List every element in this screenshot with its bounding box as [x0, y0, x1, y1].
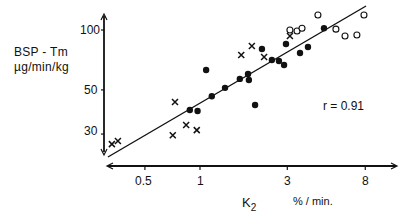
- x-axis-label-main: K: [242, 195, 251, 210]
- data-point-cross: [194, 127, 200, 133]
- data-point-filled-circle: [259, 46, 265, 52]
- data-point-filled-circle: [209, 93, 215, 99]
- x-tick-1: 1: [197, 174, 204, 188]
- data-point-cross: [238, 52, 244, 58]
- data-point-cross: [261, 54, 267, 60]
- data-point-filled-circle: [194, 108, 200, 114]
- y-axis-unit: µg/min/kg: [14, 60, 69, 74]
- y-tick-30: 30: [84, 124, 97, 138]
- data-point-filled-circle: [297, 50, 303, 56]
- correlation-annotation: r = 0.91: [323, 99, 364, 113]
- data-point-cross: [172, 99, 178, 105]
- data-point-filled-circle: [276, 58, 282, 64]
- x-axis-label: K2: [242, 195, 256, 213]
- data-point-filled-circle: [281, 62, 287, 68]
- data-point-open-circle: [333, 26, 339, 32]
- data-point-cross: [249, 43, 255, 49]
- data-point-filled-circle: [246, 77, 252, 83]
- x-tick-8: 8: [362, 174, 369, 188]
- y-axis-label: BSP - Tm: [14, 45, 68, 59]
- x-tick-0.5: 0.5: [135, 174, 152, 188]
- data-point-filled-circle: [187, 107, 193, 113]
- data-point-cross: [109, 141, 115, 147]
- data-point-open-circle: [299, 25, 305, 31]
- data-point-cross: [183, 122, 189, 128]
- data-point-filled-circle: [321, 25, 327, 31]
- data-point-filled-circle: [252, 102, 258, 108]
- scatter-chart: BSP - Tm µg/min/kg 100 50 30 0.5 1 3 8 K…: [0, 0, 412, 216]
- data-point-open-circle: [287, 27, 293, 33]
- data-point-filled-circle: [269, 57, 275, 63]
- x-tick-3: 3: [284, 174, 291, 188]
- data-point-filled-circle: [222, 85, 228, 91]
- y-tick-100: 100: [80, 23, 100, 37]
- data-point-open-circle: [361, 12, 367, 18]
- data-point-open-circle: [354, 32, 360, 38]
- y-tick-50: 50: [84, 83, 97, 97]
- regression-line: [108, 6, 366, 157]
- x-axis-unit: % / min.: [293, 195, 333, 207]
- data-point-cross: [287, 33, 293, 39]
- data-point-filled-circle: [245, 71, 251, 77]
- data-point-cross: [170, 132, 176, 138]
- data-point-open-circle: [315, 12, 321, 18]
- data-point-filled-circle: [203, 67, 209, 73]
- data-point-filled-circle: [237, 76, 243, 82]
- data-point-open-circle: [342, 33, 348, 39]
- data-point-filled-circle: [283, 41, 289, 47]
- data-point-cross: [115, 138, 121, 144]
- x-axis-label-sub: 2: [251, 202, 257, 213]
- data-point-filled-circle: [305, 44, 311, 50]
